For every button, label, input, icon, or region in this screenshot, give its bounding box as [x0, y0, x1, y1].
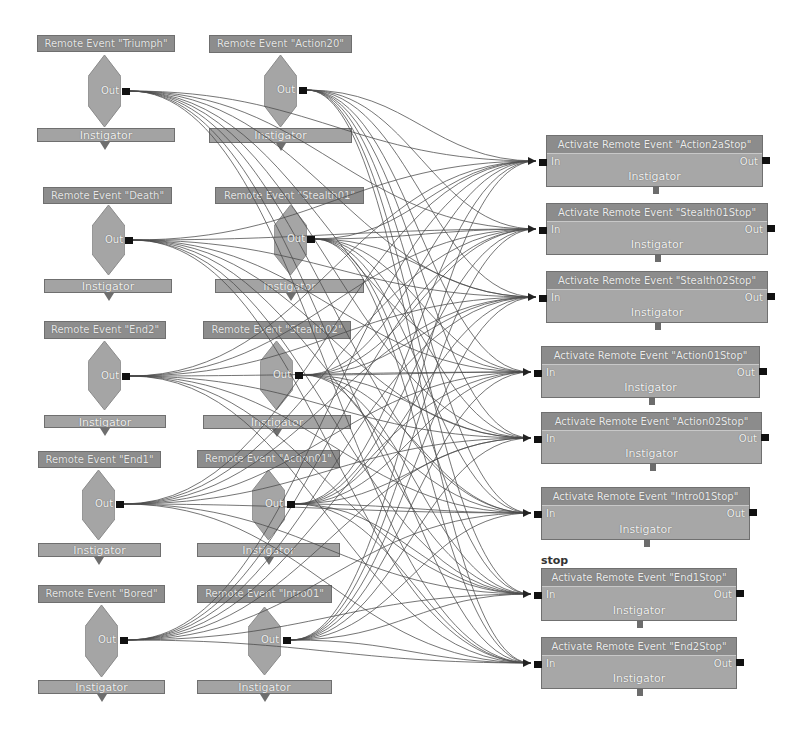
instigator-arrow-icon[interactable] [104, 293, 114, 301]
instigator-label: Instigator [542, 604, 736, 617]
out-label: Out [740, 156, 758, 167]
out-port-label: Out [265, 498, 283, 509]
out-port-end2[interactable] [122, 373, 130, 380]
in-port[interactable] [534, 370, 542, 377]
in-port[interactable] [534, 661, 542, 668]
comment-label: stop [541, 554, 568, 567]
activate-remote-event-node-action2astop[interactable]: Activate Remote Event "Action2aStop"InOu… [546, 135, 763, 187]
instigator-bar[interactable]: Instigator [203, 415, 351, 429]
instigator-arrow-icon[interactable] [94, 557, 104, 565]
instigator-label: Instigator [542, 447, 761, 460]
remote-event-title-death[interactable]: Remote Event "Death" [43, 187, 172, 204]
out-port-stealth02[interactable] [295, 372, 303, 379]
activate-remote-event-node-action01stop[interactable]: Activate Remote Event "Action01Stop"InOu… [541, 346, 760, 398]
out-label: Out [714, 589, 732, 600]
instigator-bar[interactable]: Instigator [38, 543, 161, 557]
instigator-label: Instigator [547, 170, 762, 183]
instigator-port[interactable] [649, 397, 655, 405]
in-port[interactable] [534, 511, 542, 518]
instigator-arrow-icon[interactable] [272, 429, 282, 437]
instigator-arrow-icon[interactable] [264, 557, 274, 565]
out-port-triumph[interactable] [122, 88, 130, 95]
out-port[interactable] [767, 225, 775, 232]
instigator-bar[interactable]: Instigator [197, 543, 340, 557]
out-port-label: Out [95, 498, 113, 509]
out-port-stealth01[interactable] [307, 236, 315, 243]
instigator-bar[interactable]: Instigator [215, 279, 364, 293]
out-label: Out [745, 292, 763, 303]
activate-remote-event-node-stealth01stop[interactable]: Activate Remote Event "Stealth01Stop"InO… [546, 203, 768, 255]
instigator-port[interactable] [655, 322, 661, 330]
instigator-arrow-icon[interactable] [97, 694, 107, 702]
remote-event-title-end2[interactable]: Remote Event "End2" [44, 321, 166, 339]
node-title: Activate Remote Event "Action2aStop" [547, 136, 762, 154]
instigator-arrow-icon[interactable] [276, 143, 286, 151]
instigator-port[interactable] [655, 254, 661, 262]
instigator-bar[interactable]: Instigator [209, 128, 352, 143]
out-port-death[interactable] [125, 237, 133, 244]
instigator-label: Instigator [542, 381, 759, 394]
in-port[interactable] [534, 436, 542, 443]
instigator-arrow-icon[interactable] [286, 293, 296, 301]
node-title: Activate Remote Event "Action02Stop" [542, 413, 761, 431]
activate-remote-event-node-intro01stop[interactable]: Activate Remote Event "Intro01Stop"InOut… [541, 487, 750, 540]
instigator-label: Instigator [547, 306, 767, 319]
activate-remote-event-node-stealth02stop[interactable]: Activate Remote Event "Stealth02Stop"InO… [546, 271, 768, 323]
instigator-port[interactable] [637, 620, 643, 628]
remote-event-title-stealth01[interactable]: Remote Event "Stealth01" [215, 187, 364, 204]
out-port-action20[interactable] [299, 87, 307, 94]
activate-remote-event-node-end2stop[interactable]: Activate Remote Event "End2Stop"InOutIns… [541, 637, 737, 689]
remote-event-title-stealth02[interactable]: Remote Event "Stealth02" [203, 321, 351, 339]
out-port[interactable] [759, 368, 767, 375]
remote-event-title-triumph[interactable]: Remote Event "Triumph" [37, 35, 175, 52]
node-title: Activate Remote Event "Action01Stop" [542, 347, 759, 365]
instigator-port[interactable] [653, 186, 659, 194]
out-port[interactable] [736, 590, 744, 597]
out-port-label: Out [98, 634, 116, 645]
out-port[interactable] [749, 509, 757, 516]
instigator-bar[interactable]: Instigator [44, 279, 172, 293]
in-label: In [551, 156, 560, 167]
in-port[interactable] [539, 159, 547, 166]
instigator-port[interactable] [650, 463, 656, 471]
remote-event-title-intro01[interactable]: Remote Event "Intro01" [197, 585, 332, 603]
instigator-label: Instigator [547, 238, 767, 251]
out-port-label: Out [101, 370, 119, 381]
out-label: Out [714, 658, 732, 669]
out-port[interactable] [762, 157, 770, 164]
out-port-end1[interactable] [116, 501, 124, 508]
instigator-bar[interactable]: Instigator [37, 128, 175, 142]
out-port-label: Out [287, 233, 305, 244]
instigator-arrow-icon[interactable] [100, 428, 110, 436]
in-port[interactable] [534, 592, 542, 599]
in-port[interactable] [539, 227, 547, 234]
instigator-arrow-icon[interactable] [260, 694, 270, 702]
node-title: Activate Remote Event "Stealth01Stop" [547, 204, 767, 222]
in-label: In [546, 367, 555, 378]
in-label: In [551, 224, 560, 235]
out-port[interactable] [761, 434, 769, 441]
remote-event-title-end1[interactable]: Remote Event "End1" [38, 451, 161, 468]
in-label: In [546, 508, 555, 519]
out-port[interactable] [767, 293, 775, 300]
out-port-label: Out [105, 234, 123, 245]
in-port[interactable] [539, 295, 547, 302]
out-port[interactable] [736, 659, 744, 666]
instigator-arrow-icon[interactable] [100, 142, 110, 150]
out-port-action01[interactable] [287, 501, 295, 508]
remote-event-title-bored[interactable]: Remote Event "Bored" [38, 585, 165, 603]
instigator-bar[interactable]: Instigator [197, 680, 332, 694]
instigator-bar[interactable]: Instigator [38, 680, 165, 694]
out-port-label: Out [261, 634, 279, 645]
out-port-intro01[interactable] [283, 637, 291, 644]
instigator-port[interactable] [637, 688, 643, 696]
remote-event-title-action01[interactable]: Remote Event "Action01" [197, 450, 340, 468]
instigator-port[interactable] [644, 539, 650, 547]
activate-remote-event-node-end1stop[interactable]: Activate Remote Event "End1Stop"InOutIns… [541, 568, 737, 621]
kismet-graph-canvas[interactable]: Remote Event "Triumph"OutInstigatorRemot… [0, 0, 808, 733]
out-label: Out [737, 367, 755, 378]
activate-remote-event-node-action02stop[interactable]: Activate Remote Event "Action02Stop"InOu… [541, 412, 762, 464]
remote-event-title-action20[interactable]: Remote Event "Action20" [209, 35, 352, 53]
instigator-bar[interactable]: Instigator [44, 415, 166, 428]
out-port-bored[interactable] [120, 637, 128, 644]
